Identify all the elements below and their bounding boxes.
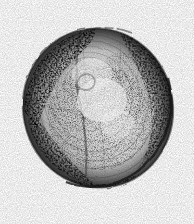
bivalve-shell-illustration: Scanned pen-and-ink stipple illustration… <box>0 0 194 224</box>
valve-drawing <box>0 0 194 224</box>
figure-canvas: Scanned pen-and-ink stipple illustration… <box>0 0 194 224</box>
paper-grain <box>0 0 194 224</box>
